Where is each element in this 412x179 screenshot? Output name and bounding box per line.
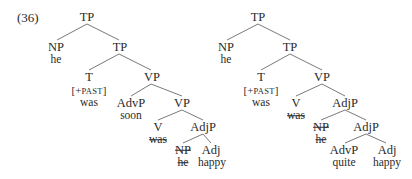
word-was: was bbox=[252, 97, 270, 109]
node-tp-root: TP bbox=[80, 11, 95, 24]
word-he-deleted: he bbox=[178, 157, 189, 169]
node-adjp: AdjP bbox=[190, 121, 216, 134]
word-he: he bbox=[221, 54, 232, 66]
word-happy: happy bbox=[373, 157, 401, 169]
word-quite: quite bbox=[333, 157, 356, 169]
node-adj: Adj bbox=[202, 144, 221, 157]
node-np-subject: NP bbox=[48, 41, 64, 54]
word-he: he bbox=[51, 54, 62, 66]
node-advp: AdvP bbox=[330, 144, 358, 157]
node-advp: AdvP bbox=[117, 97, 145, 110]
node-vp: VP bbox=[314, 71, 330, 84]
node-tp-root: TP bbox=[251, 11, 266, 24]
word-happy: happy bbox=[198, 157, 226, 169]
word-was-deleted: was bbox=[149, 134, 167, 146]
word-was: was bbox=[80, 97, 98, 109]
node-v: V bbox=[153, 121, 162, 134]
node-vp-lower: VP bbox=[174, 97, 190, 110]
feature-past: [+PAST] bbox=[72, 85, 107, 96]
node-vp: VP bbox=[144, 71, 160, 84]
node-t: T bbox=[257, 71, 265, 84]
node-adj: Adj bbox=[378, 144, 397, 157]
node-adjp-lower: AdjP bbox=[353, 121, 379, 134]
node-v: V bbox=[291, 97, 300, 110]
word-he-deleted: he bbox=[316, 134, 327, 146]
node-tp-bar: TP bbox=[283, 41, 298, 54]
node-tp-bar: TP bbox=[113, 41, 128, 54]
example-number: (36) bbox=[17, 10, 39, 26]
word-soon: soon bbox=[120, 110, 142, 122]
node-np-deleted: NP bbox=[175, 144, 191, 157]
node-t: T bbox=[85, 71, 93, 84]
node-np-deleted: NP bbox=[313, 121, 329, 134]
word-was-deleted: was bbox=[287, 110, 305, 122]
node-np-subject: NP bbox=[218, 41, 234, 54]
feature-past: [+PAST] bbox=[244, 85, 279, 96]
node-adjp: AdjP bbox=[332, 97, 358, 110]
